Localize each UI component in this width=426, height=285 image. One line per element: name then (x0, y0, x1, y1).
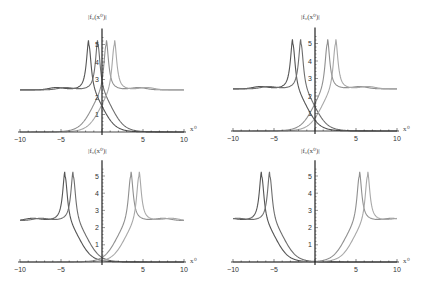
y-axis-label: |f₀(x⁰)| (88, 147, 107, 155)
y-tick-label: 4 (308, 58, 312, 65)
x-tick-label: −5 (270, 266, 278, 273)
x-axis-label: x⁰ (190, 257, 197, 265)
y-tick-label: 3 (308, 75, 312, 82)
x-axis-label: x⁰ (403, 257, 410, 265)
y-tick-label: 5 (308, 173, 312, 180)
x-tick-label: 5 (354, 266, 358, 273)
plot-canvas: −10−551012345 (0, 142, 213, 284)
y-axis-label: |f₀(x⁰)| (301, 147, 320, 155)
x-tick-label: −10 (14, 266, 26, 273)
y-tick-label: 2 (308, 93, 312, 100)
y-tick-label: 5 (308, 40, 312, 47)
y-tick-label: 5 (95, 41, 99, 48)
y-axis-label: |f₀(x⁰)| (88, 13, 107, 21)
plot-canvas: −10−551012345 (0, 0, 213, 142)
x-tick-label: 10 (393, 135, 401, 142)
y-tick-label: 4 (308, 190, 312, 197)
x-tick-label: 10 (393, 266, 401, 273)
y-tick-label: 3 (95, 76, 99, 83)
y-tick-label: 4 (95, 59, 99, 66)
plot-top-left: −10−551012345 |f₀(x⁰)| x⁰ (0, 0, 213, 142)
plot-bottom-right: −10−551012345 |f₀(x⁰)| x⁰ (213, 142, 426, 284)
x-tick-label: −10 (227, 266, 239, 273)
y-tick-label: 4 (95, 190, 99, 197)
y-axis-label: |f₀(x⁰)| (301, 13, 320, 21)
plot-canvas: −10−551012345 (213, 0, 426, 142)
y-tick-label: 1 (95, 111, 99, 118)
x-axis-label: x⁰ (190, 125, 197, 133)
y-tick-label: 1 (95, 241, 99, 248)
x-tick-label: 10 (180, 266, 188, 273)
x-tick-label: −10 (227, 135, 239, 142)
y-tick-label: 3 (308, 207, 312, 214)
x-tick-label: −5 (270, 135, 278, 142)
plot-bottom-left: −10−551012345 |f₀(x⁰)| x⁰ (0, 142, 213, 284)
y-tick-label: 3 (95, 207, 99, 214)
y-tick-label: 5 (95, 173, 99, 180)
y-tick-label: 2 (95, 224, 99, 231)
x-tick-label: −5 (57, 266, 65, 273)
y-tick-label: 2 (308, 224, 312, 231)
y-tick-label: 1 (308, 241, 312, 248)
plot-canvas: −10−551012345 (213, 142, 426, 284)
y-tick-label: 2 (95, 94, 99, 101)
x-tick-label: 5 (354, 135, 358, 142)
y-tick-label: 1 (308, 110, 312, 117)
x-axis-label: x⁰ (403, 125, 410, 133)
plot-top-right: −10−551012345 |f₀(x⁰)| x⁰ (213, 0, 426, 142)
x-tick-label: 5 (141, 266, 145, 273)
